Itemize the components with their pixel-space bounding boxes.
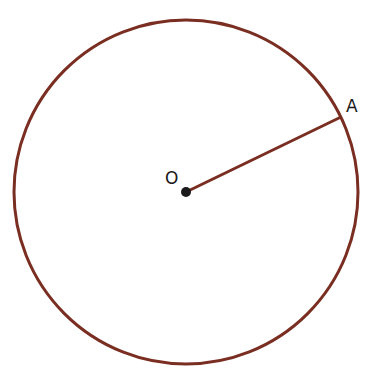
point-a-label: A: [346, 96, 358, 116]
radius-oa: [186, 117, 341, 192]
center-point: [181, 187, 191, 197]
center-label: O: [165, 168, 178, 188]
circle-diagram: O A: [0, 0, 376, 385]
